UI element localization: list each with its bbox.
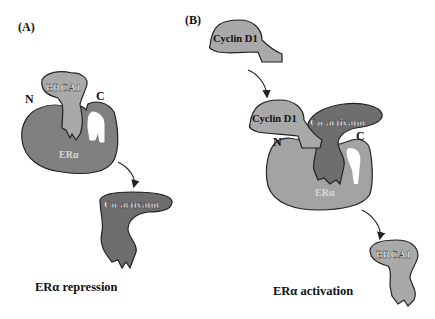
coactivator-label-bound: Co-activator	[310, 117, 367, 128]
cyclin-d1-label-incoming: Cyclin D1	[213, 33, 258, 44]
panel-b: (B) Cyclin D1 Co-activator Cyclin D1 N C…	[185, 13, 418, 306]
cyclin-d1-label-bound: Cyclin D1	[252, 113, 297, 124]
diagram-canvas: (A) BRCA1 N C ERα Co-activator ERα repre…	[0, 0, 435, 319]
panel-a: (A) BRCA1 N C ERα Co-activator ERα repre…	[18, 20, 172, 294]
brca1-label-released: BRCA1	[376, 249, 411, 260]
c-terminus-label-b: C	[356, 129, 365, 143]
release-arrow-a	[118, 162, 134, 186]
release-arrow-b	[362, 210, 380, 238]
n-terminus-label-b: N	[273, 135, 282, 149]
caption-b: ERα activation	[273, 284, 353, 298]
coactivator-label-a: Co-activator	[104, 199, 161, 210]
era-label-b: ERα	[315, 187, 335, 198]
binding-arrow-b	[248, 70, 267, 96]
caption-a: ERα repression	[35, 280, 118, 294]
era-pocket-a	[88, 112, 104, 142]
panel-b-label: (B)	[185, 13, 201, 27]
panel-a-label: (A)	[18, 20, 35, 34]
brca1-label-a: BRCA1	[46, 82, 81, 93]
era-label-a: ERα	[59, 149, 79, 160]
c-terminus-label-a: C	[96, 89, 105, 103]
n-terminus-label-a: N	[25, 92, 34, 106]
